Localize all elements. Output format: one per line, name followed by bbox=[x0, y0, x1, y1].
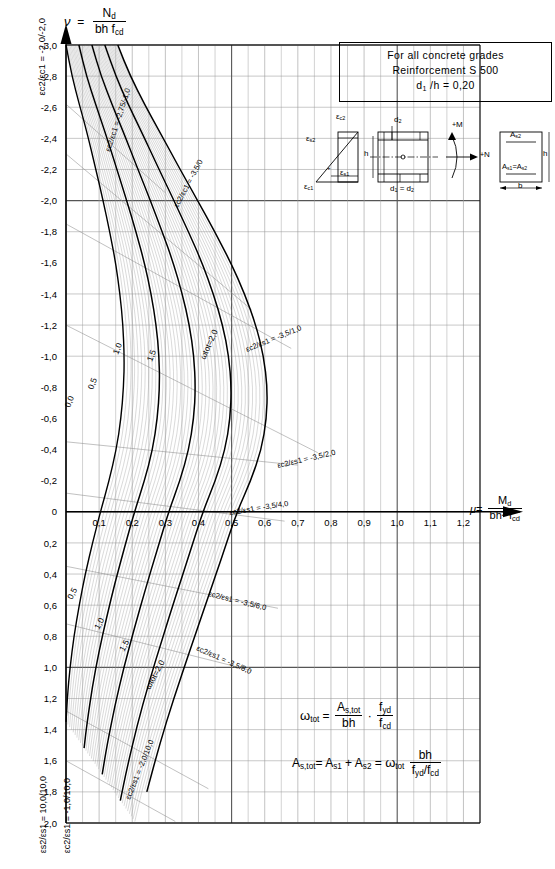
x-tick-label: 1,2 bbox=[457, 517, 470, 528]
omega-num1: As,tot bbox=[335, 700, 362, 716]
chart-curve-labels: εc2/εc1 = -2,75/-1,0εc2/εc1 = -3,5/0ωtot… bbox=[62, 87, 336, 801]
omega2-sub: tot bbox=[395, 762, 404, 771]
label-omega-00: 0,0 bbox=[62, 394, 75, 409]
omega-frac-2: fyd fcd bbox=[377, 700, 393, 731]
label-as1-as2: As1=As2 bbox=[502, 162, 527, 171]
label-h-right: h bbox=[543, 149, 547, 158]
interaction-diagram-page: -3,0-2,8-2,6-2,4-2,2-2,0-1,8-1,6-1,4-1,2… bbox=[0, 0, 555, 869]
y-axis-symbol: ν bbox=[64, 14, 71, 29]
d2b-sub: 2 bbox=[411, 187, 414, 193]
y-tick-label: 1,0 bbox=[44, 662, 57, 673]
x-tick-label: 0,3 bbox=[159, 517, 172, 528]
label-omega-05-low: 0,5 bbox=[65, 586, 79, 601]
x-num-sub: d bbox=[507, 499, 511, 508]
y-axis-fraction: Nd bh fcd bbox=[93, 6, 126, 37]
x-tick-label: 0,1 bbox=[93, 517, 106, 528]
as1-eq: =A bbox=[512, 162, 521, 171]
y-axis-numerator: Nd bbox=[93, 6, 126, 22]
label-d1-d2: d1 = d2 bbox=[390, 184, 414, 193]
fyd-sub: yd bbox=[382, 706, 391, 715]
as-tot2-sub: s,tot bbox=[300, 762, 315, 771]
legend-line-2: Reinforcement S 500 bbox=[350, 63, 541, 78]
omega-eq: = bbox=[323, 709, 330, 723]
y-tick-label: -0,8 bbox=[41, 382, 57, 393]
y-tick-label: -0,2 bbox=[41, 475, 57, 486]
as1-term-sub: s1 bbox=[333, 762, 342, 771]
label-eps-c2-c1-top-text: εc2/εc1 = -2,0/-2,0 bbox=[36, 18, 47, 95]
moment-sym: M bbox=[456, 120, 463, 129]
y-den-sub: cd bbox=[115, 28, 124, 37]
section-diagram-labels: εc2 εs2 εs1 εc1 d2 h d1 = d2 +M +N As2 A… bbox=[300, 118, 552, 198]
normal-sym: N bbox=[484, 150, 490, 159]
x-tick-label: 1,1 bbox=[424, 517, 437, 528]
y-tick-label: 0,4 bbox=[44, 569, 57, 580]
as-eq2: = bbox=[375, 756, 382, 770]
legend-line-3: d1 /h = 0,20 bbox=[350, 78, 541, 94]
y-tick-label: 1,2 bbox=[44, 693, 57, 704]
x-tick-label: 0,6 bbox=[258, 517, 271, 528]
label-moment: +M bbox=[452, 120, 463, 129]
label-h-mid: h bbox=[364, 149, 368, 158]
omega-den2: fcd bbox=[377, 716, 393, 731]
y-tick-label: -1,2 bbox=[41, 320, 57, 331]
d2-sub: 2 bbox=[398, 118, 401, 124]
y-tick-label: 0,2 bbox=[44, 538, 57, 549]
y-tick-label: -2,6 bbox=[41, 102, 57, 113]
label-eps-s2: εs2 bbox=[306, 134, 315, 143]
as-frac-num: bh bbox=[410, 748, 441, 763]
x-axis-fraction: Md bh2 fcd bbox=[488, 494, 522, 523]
x-tick-label: 1,0 bbox=[391, 517, 404, 528]
fcd-sub: cd bbox=[382, 722, 391, 731]
label-eps-c2-c1-top: εc2/εc1 = -2,0/-2,0 bbox=[36, 18, 47, 95]
legend-line-1: For all concrete grades bbox=[350, 48, 541, 63]
x-tick-label: 0,9 bbox=[357, 517, 370, 528]
y-tick-label: -0,6 bbox=[41, 413, 57, 424]
omega-interpolation-line bbox=[87, 45, 181, 764]
formula-omega-tot: ωtot = As,tot bh · fyd fcd bbox=[300, 700, 395, 731]
y-axis-title: ν = Nd bh fcd bbox=[64, 6, 128, 37]
formula-as-tot: As,tot= As1 + As2 = ωtot bh fyd/fcd bbox=[292, 748, 443, 778]
omega-sym: ω bbox=[300, 708, 310, 723]
as-frac-den: fyd/fcd bbox=[410, 763, 441, 778]
y-tick-label: 0,6 bbox=[44, 600, 57, 611]
omega2-sym: ω bbox=[385, 755, 395, 770]
label-normal: +N bbox=[480, 150, 490, 159]
y-tick-label: 0 bbox=[52, 506, 57, 517]
x-tick-label: 0,8 bbox=[324, 517, 337, 528]
x-den-text: bh bbox=[490, 509, 502, 521]
label-strain-3560: εc2/εs1 = -3,5/6,0 bbox=[208, 589, 268, 612]
y-tick-label: -2,0 bbox=[41, 195, 57, 206]
x-tick-label: 0,4 bbox=[192, 517, 205, 528]
as-tot2-sym: A bbox=[292, 756, 300, 770]
as1-term: A bbox=[325, 756, 333, 770]
omega-frac-1: As,tot bh bbox=[335, 700, 362, 730]
as2-term: A bbox=[355, 756, 363, 770]
omega-dot: · bbox=[368, 709, 372, 723]
eps-c2-sub: c2 bbox=[340, 115, 346, 121]
f2-fyd-sub: yd bbox=[415, 769, 424, 778]
y-tick-label: -1,4 bbox=[41, 289, 57, 300]
label-eps-c2-s1-neg1: εc2/εs1 = -1,0/10,0 bbox=[62, 778, 72, 853]
omega-interaction-curves bbox=[66, 45, 267, 801]
h-right-sym: h bbox=[543, 149, 547, 158]
eps-s2-sub: s2 bbox=[310, 137, 316, 143]
label-strain-3580: εc2/εs1 = -3,5/8,0 bbox=[195, 644, 253, 676]
as2b-sub: s2 bbox=[522, 165, 527, 171]
label-as2: As2 bbox=[510, 130, 521, 139]
y-den-text: bh f bbox=[95, 22, 115, 36]
y-num-sub: d bbox=[111, 12, 116, 21]
as-plus: + bbox=[345, 756, 352, 770]
label-eps-s1: εs1 bbox=[340, 168, 349, 177]
legend-box: For all concrete grades Reinforcement S … bbox=[339, 42, 552, 102]
y-tick-label: 1,6 bbox=[44, 755, 57, 766]
as-eq1: = bbox=[315, 756, 322, 770]
eps-c1-sub: c1 bbox=[308, 185, 314, 191]
as2-term-sub: s2 bbox=[363, 762, 372, 771]
y-tick-label: -1,8 bbox=[41, 226, 57, 237]
label-eps-s2-s1-bottom: εs2/εs1 = 10,0/10,0 bbox=[38, 776, 48, 853]
label-d2-top: d2 bbox=[394, 115, 401, 124]
label-b: b bbox=[518, 181, 522, 190]
y-tick-label: -1,6 bbox=[41, 257, 57, 268]
f2-fcd-sub: cd bbox=[430, 769, 439, 778]
x-axis-title: μ= Md bh2 fcd bbox=[470, 494, 524, 523]
